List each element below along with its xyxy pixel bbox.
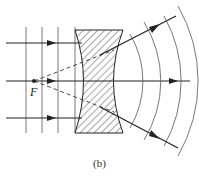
arrow-icon	[47, 40, 56, 46]
focal-point-label: F	[30, 85, 37, 100]
arrow-icon	[47, 115, 56, 121]
figure-caption: (b)	[0, 157, 199, 169]
arrow-icon	[149, 24, 160, 33]
arrow-icon	[169, 78, 178, 84]
focal-point	[32, 79, 36, 83]
arrow-icon	[149, 130, 160, 139]
